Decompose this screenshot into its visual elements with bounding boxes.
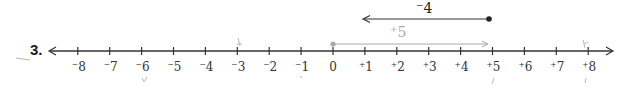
tick-label: ⁻3 [231,60,245,74]
tick-label: ⁻6 [136,60,150,74]
tick-label: ⁺7 [550,60,564,74]
start-dot-icon [486,16,492,22]
number-line-diagram: 3. ⁻8⁻7⁻6⁻5⁻4⁻3⁻2⁻10⁺1⁺2⁺3⁺4⁺5⁺6⁺7⁺8 ⁺5 … [0,0,633,98]
tick-label: ⁺5 [487,60,501,74]
vector-minus-four: ⁻4 [363,0,492,23]
tick-label: ⁺1 [359,60,373,74]
tick-label: ⁺6 [518,60,532,74]
tick-label: ⁺4 [455,60,469,74]
tick-label: ⁺3 [423,60,437,74]
tick-label: ⁻8 [72,60,86,74]
tick-labels: ⁻8⁻7⁻6⁻5⁻4⁻3⁻2⁻10⁺1⁺2⁺3⁺4⁺5⁺6⁺7⁺8 [72,60,596,74]
tick-label: ⁺2 [391,60,405,74]
tick-label: ⁻4 [199,60,213,74]
tick-label: ⁻1 [295,60,309,74]
vector-plus-five: ⁺5 [330,24,488,47]
tick-label: 0 [329,60,337,74]
vector-label-minus-four: ⁻4 [416,0,432,16]
vector-label-plus-five: ⁺5 [390,24,406,40]
tick-label: ⁻5 [168,60,182,74]
tick-label: ⁺8 [582,60,596,74]
number-line-axis [49,47,613,55]
tick-label: ⁻2 [263,60,277,74]
problem-number: 3. [30,41,43,58]
pencil-mark [16,58,30,60]
start-dot-icon [330,41,335,46]
tick-label: ⁻7 [104,60,118,74]
